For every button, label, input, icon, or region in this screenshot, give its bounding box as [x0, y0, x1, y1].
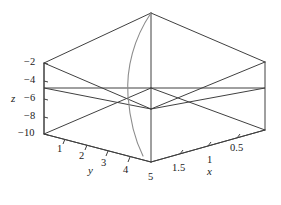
top-face-back-left-edge: [44, 13, 151, 63]
plane-edge-left-to-back: [44, 88, 151, 109]
y-tick-label-3: 3: [101, 158, 106, 169]
top-face-back-right-edge: [151, 13, 265, 62]
top-face-front-left-edge: [44, 63, 151, 109]
y-tick-label-5: 5: [148, 172, 153, 183]
y-tick-label-1: 1: [57, 144, 62, 155]
x-tick-label-1.5: 1.5: [172, 163, 185, 174]
y-tick-label-4: 4: [123, 165, 128, 176]
z-tick-label--8: −8: [24, 111, 35, 122]
space-curve-path: [128, 13, 151, 156]
x-tick-label-0.5: 0.5: [230, 143, 243, 154]
z-tick-label--2: −2: [24, 57, 35, 68]
z-tick--6: [44, 99, 48, 100]
z-tick-label--10: −10: [18, 128, 34, 139]
y-tick-label-2: 2: [79, 151, 84, 162]
y-tick-2: [85, 145, 87, 150]
z-tick-label--6: −6: [24, 93, 35, 104]
y-tick-3: [106, 151, 108, 156]
y-tick-4: [128, 157, 130, 162]
z-tick--2: [44, 63, 48, 64]
z-tick--8: [44, 117, 48, 118]
plot-canvas: [0, 0, 281, 205]
space-curve: [128, 13, 151, 156]
z-tick-label--4: −4: [24, 75, 35, 86]
z-tick--4: [44, 81, 48, 82]
bottom-face-right-back-edge: [151, 88, 265, 130]
plot-3d-figure: −2 −4 −6 −8 −10 z 1 2 3 4 5 y 1.5 1 0.5 …: [0, 0, 281, 205]
reference-plane-lines: [44, 88, 265, 109]
z-axis-label: z: [11, 93, 15, 104]
top-face-front-right-edge: [151, 62, 265, 109]
x-axis-label: x: [207, 166, 212, 177]
bottom-face-left-back-edge: [44, 88, 151, 134]
x-tick-label-1: 1: [207, 155, 212, 166]
plane-edge-back-to-right: [151, 88, 265, 109]
z-axis: [44, 63, 48, 135]
y-axis-label: y: [88, 165, 93, 176]
